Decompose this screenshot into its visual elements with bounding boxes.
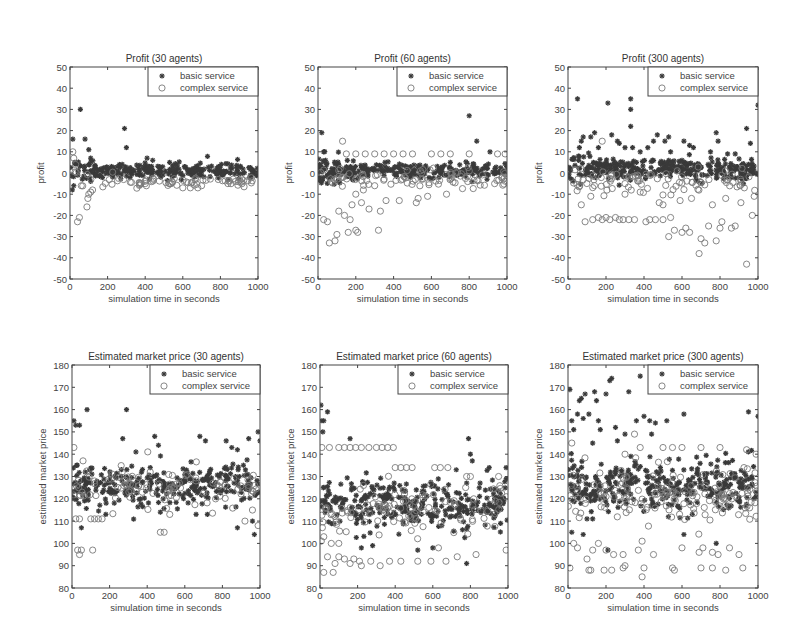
y-tick-label: 90 <box>554 560 565 571</box>
subplot-price_60: 0200400600800100018017016015014013012011… <box>285 351 519 613</box>
y-tick-label: 80 <box>58 583 69 594</box>
y-axis-label: profit <box>283 162 294 183</box>
x-tick-label: 0 <box>565 281 570 292</box>
y-tick-label: 30 <box>554 104 565 115</box>
y-tick-label: 140 <box>53 449 69 460</box>
y-tick-label: 10 <box>56 146 67 157</box>
y-tick-label: 20 <box>304 125 315 136</box>
chart-title: Profit (60 agents) <box>374 53 451 64</box>
y-tick-label: 0 <box>62 168 67 179</box>
x-tick-label: 1000 <box>496 281 517 292</box>
y-tick-label: 100 <box>301 538 317 549</box>
y-tick-label: 180 <box>301 360 317 371</box>
legend-label-basic: basic service <box>680 70 735 81</box>
y-tick-label: 40 <box>56 83 67 94</box>
y-tick-label: 150 <box>301 426 317 437</box>
x-tick-label: 600 <box>423 281 439 292</box>
chart-title: Estimated market price (30 agents) <box>88 351 244 362</box>
legend-label-complex: complex service <box>180 82 248 93</box>
x-axis-label: simulation time in seconds <box>358 602 470 613</box>
x-tick-label: 800 <box>461 281 477 292</box>
y-tick-label: 20 <box>56 125 67 136</box>
y-tick-label: 170 <box>53 382 69 393</box>
series-complex-service <box>71 444 262 557</box>
chart-title: Profit (30 agents) <box>126 53 203 64</box>
x-axis-label: simulation time in seconds <box>110 602 222 613</box>
y-tick-label: 30 <box>304 104 315 115</box>
y-tick-label: 30 <box>56 104 67 115</box>
x-tick-label: 0 <box>69 590 74 601</box>
x-tick-label: 200 <box>102 590 118 601</box>
subplot-price_300: 0200400600800100018017016015014013012011… <box>533 351 769 613</box>
y-tick-label: -50 <box>53 274 67 285</box>
x-axis-label: simulation time in seconds <box>357 293 469 304</box>
y-tick-label: -50 <box>551 274 565 285</box>
scatter-points <box>70 407 263 558</box>
x-tick-label: 400 <box>139 590 155 601</box>
legend-label-basic: basic service <box>680 368 735 379</box>
y-tick-label: -20 <box>53 210 67 221</box>
y-tick-label: 100 <box>53 538 69 549</box>
y-tick-label: 100 <box>549 538 565 549</box>
x-axis-label: simulation time in seconds <box>108 293 220 304</box>
y-tick-label: 160 <box>301 404 317 415</box>
y-tick-label: 140 <box>549 449 565 460</box>
legend: basic servicecomplex service <box>648 67 758 96</box>
x-tick-label: 0 <box>317 590 322 601</box>
y-tick-label: 150 <box>53 426 69 437</box>
chart-title: Estimated market price (300 agents) <box>582 351 743 362</box>
x-tick-label: 200 <box>350 590 366 601</box>
series-basic-service <box>565 374 760 553</box>
y-tick-label: -10 <box>301 189 315 200</box>
x-tick-label: 200 <box>598 590 614 601</box>
y-tick-label: 40 <box>304 83 315 94</box>
y-tick-label: 10 <box>554 146 565 157</box>
y-tick-label: 130 <box>549 471 565 482</box>
y-tick-label: 0 <box>560 168 565 179</box>
y-tick-label: -40 <box>53 252 67 263</box>
x-tick-label: 400 <box>387 590 403 601</box>
scatter-points <box>318 403 510 576</box>
x-tick-label: 400 <box>636 590 652 601</box>
x-tick-label: 800 <box>712 590 728 601</box>
x-tick-label: 600 <box>674 590 690 601</box>
x-tick-label: 800 <box>214 590 230 601</box>
figure: 0200400600800100050403020100-10-20-30-40… <box>0 0 804 643</box>
y-axis-label: estimated market price <box>285 428 296 524</box>
x-axis-label: simulation time in seconds <box>607 293 719 304</box>
y-tick-label: -40 <box>301 252 315 263</box>
legend-label-complex: complex service <box>430 380 498 391</box>
y-tick-label: -30 <box>551 231 565 242</box>
y-tick-label: 10 <box>304 146 315 157</box>
y-tick-label: 130 <box>53 471 69 482</box>
subplot-profit_30: 0200400600800100050403020100-10-20-30-40… <box>35 53 269 304</box>
figure-canvas: 0200400600800100050403020100-10-20-30-40… <box>0 0 804 643</box>
subplot-profit_60: 0200400600800100050403020100-10-20-30-40… <box>283 53 518 304</box>
chart-title: Estimated market price (60 agents) <box>336 351 492 362</box>
x-tick-label: 1000 <box>497 590 518 601</box>
x-tick-label: 1000 <box>747 281 768 292</box>
y-tick-label: 50 <box>554 62 565 73</box>
y-axis-label: estimated market price <box>37 428 48 524</box>
legend: basic servicecomplex service <box>398 365 508 394</box>
subplot-price_30: 0200400600800100018017016015014013012011… <box>37 351 271 613</box>
x-tick-label: 600 <box>674 281 690 292</box>
y-tick-label: 50 <box>56 62 67 73</box>
y-tick-label: 90 <box>306 560 317 571</box>
y-tick-label: 120 <box>549 493 565 504</box>
chart-title: Profit (300 agents) <box>622 53 704 64</box>
x-tick-label: 200 <box>100 281 116 292</box>
y-tick-label: -10 <box>53 189 67 200</box>
legend: basic servicecomplex service <box>397 67 507 96</box>
x-tick-label: 0 <box>315 281 320 292</box>
x-tick-label: 800 <box>712 281 728 292</box>
y-tick-label: 180 <box>53 360 69 371</box>
y-tick-label: 110 <box>302 516 317 527</box>
legend: basic servicecomplex service <box>148 67 258 96</box>
legend-label-complex: complex service <box>680 380 748 391</box>
series-basic-service <box>318 403 510 567</box>
legend-label-complex: complex service <box>680 82 748 93</box>
y-tick-label: 0 <box>310 168 315 179</box>
y-tick-label: 120 <box>301 493 317 504</box>
subplot-profit_300: 0200400600800100050403020100-10-20-30-40… <box>533 53 769 304</box>
